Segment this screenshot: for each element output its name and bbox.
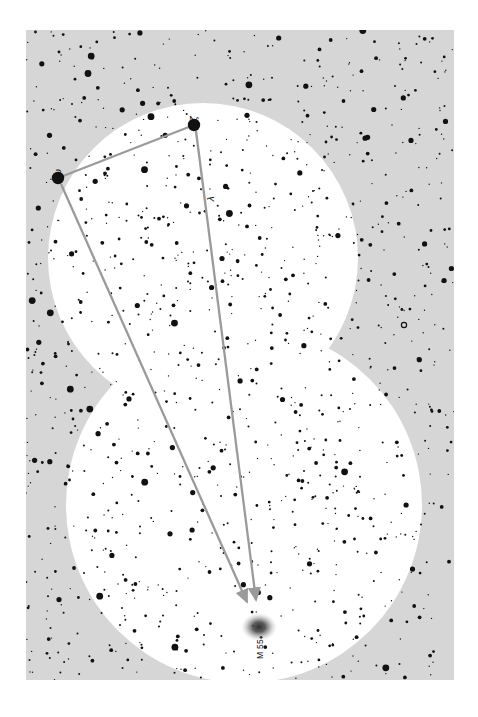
star-point [316,642,317,643]
star-point [251,611,254,614]
star-point [203,634,205,636]
star-point [75,159,78,162]
star-point [248,204,252,208]
star-point [169,325,170,326]
star-point [182,466,183,467]
star-point [27,273,29,275]
star-point [198,561,199,562]
star-point [146,293,148,295]
star-point [246,81,253,88]
star-point [207,281,209,283]
star-point [423,332,424,333]
star-point [401,308,404,311]
star-point [217,484,218,485]
star-point [444,105,446,107]
star-point [318,409,320,411]
star-point [54,417,55,418]
star-point [47,610,48,611]
star-point [254,35,255,36]
star-point [168,375,169,376]
star-point [265,584,266,585]
star-point [227,284,229,286]
star-point [181,252,182,253]
star-point [54,354,58,358]
star-point [109,153,112,156]
star-point [356,486,357,487]
star-point [31,651,32,652]
star-point [334,162,335,163]
star-point [36,340,41,345]
star-point [434,361,435,362]
star-point [284,277,288,281]
star-point [29,460,30,461]
star-point [77,429,78,430]
star-point [443,228,446,231]
star-point [133,629,137,633]
star-point [320,333,321,334]
star-point [261,271,262,272]
star-point [256,121,258,123]
star-point [347,514,350,517]
star-point [255,368,259,372]
star-point [176,260,177,261]
star-point [248,135,249,136]
star-point [90,449,91,450]
star-point [451,149,453,151]
star-point [40,371,43,374]
star-point [148,113,155,120]
star-point [41,239,42,240]
star-point [259,296,260,297]
star-point [399,63,401,65]
star-point [141,166,148,173]
star-point [306,142,307,143]
star-point [248,182,250,184]
star-point [445,70,446,71]
star-point [34,351,36,353]
star-point [291,397,292,398]
star-point [223,524,225,526]
star-point [399,48,400,49]
star-point [328,644,331,647]
star-point [388,222,389,223]
star-point [382,664,389,671]
star-point [31,229,34,232]
star-point [150,319,151,320]
star-point [205,566,206,567]
star-point [430,674,431,675]
star-point [126,659,129,662]
star-point [271,323,273,325]
star-point [325,141,328,144]
star-point [179,475,182,478]
star-point [139,581,140,582]
star-point [297,449,299,451]
star-point [188,271,192,275]
star-point [26,111,28,113]
star-point [383,249,384,250]
star-point [67,343,70,346]
star-point [300,487,303,490]
star-point [326,197,329,200]
star-point [435,128,438,131]
star-point [85,221,88,224]
star-point [285,474,288,477]
star-point [307,661,308,662]
star-point [168,353,169,354]
star-point [100,427,101,428]
star-point [167,223,170,226]
star-point [108,202,109,203]
star-point [428,654,432,658]
star-point [195,55,196,56]
star-point [356,302,357,303]
star-point [158,625,160,627]
star-point [173,427,175,429]
star-point [270,561,272,563]
star-point [85,70,92,77]
star-point [236,99,239,102]
star-point [369,517,373,521]
star-point [263,645,267,649]
star-point [131,475,134,478]
star-point [430,229,433,232]
star-point [53,200,54,201]
star-point [380,404,381,405]
star-point [36,470,39,473]
